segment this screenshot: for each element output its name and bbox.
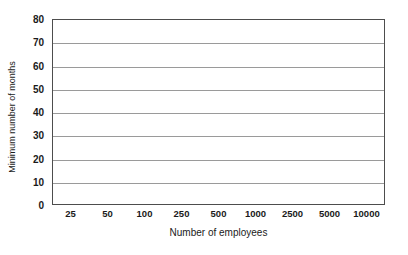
- y-axis-tick-label: 0: [38, 200, 44, 211]
- x-axis-tick-label: 500: [211, 208, 227, 219]
- x-axis-title: Number of employees: [52, 227, 385, 238]
- gridline: [53, 160, 384, 161]
- x-axis-tick-labels: 255010025050010002500500010000: [52, 208, 385, 222]
- x-axis-tick-label: 100: [137, 208, 153, 219]
- gridline: [53, 113, 384, 114]
- x-axis-tick-label: 25: [65, 208, 76, 219]
- chart-figure: 01020304050607080 Minimum number of mont…: [0, 0, 408, 255]
- gridline: [53, 90, 384, 91]
- gridline: [53, 43, 384, 44]
- y-axis-tick-label: 50: [33, 83, 44, 94]
- x-axis-tick-label: 50: [102, 208, 113, 219]
- x-axis-tick-label: 10000: [353, 208, 379, 219]
- x-axis-tick-label: 1000: [245, 208, 266, 219]
- y-axis-tick-label: 10: [33, 176, 44, 187]
- x-axis-tick-label: 250: [174, 208, 190, 219]
- gridline: [53, 136, 384, 137]
- y-axis-tick-label: 70: [33, 37, 44, 48]
- y-axis-tick-label: 60: [33, 60, 44, 71]
- y-axis-tick-label: 20: [33, 153, 44, 164]
- y-axis-tick-label: 30: [33, 130, 44, 141]
- plot-area: [52, 19, 385, 205]
- x-axis-tick-label: 2500: [282, 208, 303, 219]
- gridline: [53, 183, 384, 184]
- x-axis-tick-label: 5000: [319, 208, 340, 219]
- y-axis-tick-label: 40: [33, 107, 44, 118]
- y-axis-tick-label: 80: [33, 14, 44, 25]
- y-axis-title: Minimum number of months: [7, 42, 17, 192]
- gridline: [53, 67, 384, 68]
